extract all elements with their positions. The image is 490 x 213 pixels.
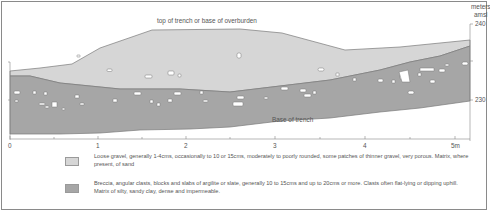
x-tick-5m: 5m (451, 142, 460, 149)
x-tick-3: 3 (273, 142, 277, 149)
x-tick-2: 2 (184, 142, 188, 149)
breccia-swatch (65, 184, 79, 193)
legend: Loose gravel, generally 1-4cms, occasion… (65, 153, 465, 207)
x-tick-1: 1 (96, 142, 100, 149)
top-surface-label: top of trench or base of overburden (157, 17, 257, 25)
x-tick-0: 0 (8, 142, 12, 149)
loose-gravel-swatch (65, 157, 79, 166)
y-tick-240: 240 (475, 20, 486, 27)
legend-item-breccia: Breccia, angular clasts, blocks and slab… (65, 180, 465, 207)
y-tick-230: 230 (475, 96, 486, 103)
legend-text-loose-gravel: Loose gravel, generally 1-4cms, occasion… (94, 153, 474, 168)
y-axis-unit-line1: meters (471, 3, 490, 10)
x-tick-4: 4 (363, 142, 367, 149)
y-axis-unit-line2: amsl (474, 11, 488, 18)
legend-item-loose-gravel: Loose gravel, generally 1-4cms, occasion… (65, 153, 465, 180)
legend-text-breccia: Breccia, angular clasts, blocks and slab… (94, 180, 474, 195)
base-label: Base of trench (272, 116, 314, 123)
